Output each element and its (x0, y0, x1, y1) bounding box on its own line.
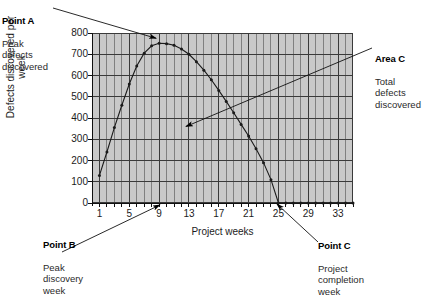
plot-area (92, 33, 353, 203)
annotation-area-c-body: Total defects discovered (375, 76, 421, 111)
x-tick-label: 25 (265, 208, 291, 219)
annotation-point-a-body: Peak defects discovered (2, 38, 48, 73)
annotation-point-c-heading: Point C (318, 240, 364, 252)
y-tick-label: 0 (58, 197, 88, 208)
y-tick-label: 300 (58, 133, 88, 144)
annotation-point-a-heading: Point A (2, 15, 48, 27)
annotation-area-c-heading: Area C (375, 53, 421, 65)
x-tick-label: 5 (116, 208, 142, 219)
x-tick-label: 29 (295, 208, 321, 219)
annotation-point-b-body: Peak discovery week (43, 262, 83, 297)
x-tick-label: 9 (146, 208, 172, 219)
annotation-point-a: Point A Peak defects discovered (2, 3, 48, 84)
x-axis-tick-labels: 159131721252933 (92, 208, 353, 222)
x-axis-title: Project weeks (92, 226, 353, 237)
y-tick-label: 500 (58, 91, 88, 102)
annotation-point-c-body: Project completion week (318, 263, 364, 298)
x-tick-label: 1 (86, 208, 112, 219)
annotation-point-b-heading: Point B (43, 239, 83, 251)
y-tick-label: 200 (58, 155, 88, 166)
x-tick-label: 33 (325, 208, 351, 219)
y-axis-tick-labels: 0100200300400500600700800 (55, 33, 88, 203)
y-tick-label: 400 (58, 112, 88, 123)
x-tick-label: 21 (236, 208, 262, 219)
annotation-area-c: Area C Total defects discovered (375, 41, 421, 122)
x-tick-label: 17 (206, 208, 232, 219)
y-tick-label: 600 (58, 70, 88, 81)
y-tick-label: 700 (58, 48, 88, 59)
y-tick-label: 800 (58, 27, 88, 38)
annotation-point-c: Point C Project completion week (318, 228, 364, 299)
annotation-point-b: Point B Peak discovery week (43, 227, 83, 299)
y-tick-label: 100 (58, 176, 88, 187)
x-tick-label: 13 (176, 208, 202, 219)
plot-grid (92, 33, 353, 203)
